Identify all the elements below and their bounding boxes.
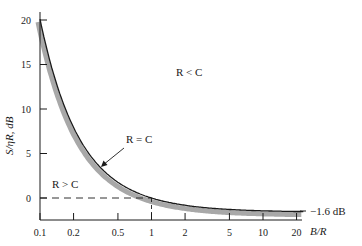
y-axis-label: S/ηR, dB bbox=[3, 116, 15, 155]
x-tick-label: 5 bbox=[227, 227, 232, 238]
plot-area: 0.10.20.5125102005101520 bbox=[21, 12, 306, 238]
y-tick-label: 5 bbox=[26, 148, 31, 159]
x-tick-label: 0.2 bbox=[67, 227, 80, 238]
chart: 0.10.20.5125102005101520 R < C R = C R >… bbox=[0, 0, 362, 246]
y-tick-label: 0 bbox=[26, 193, 31, 204]
x-tick-label: 0.5 bbox=[112, 227, 125, 238]
region-above-label: R < C bbox=[176, 66, 202, 78]
x-tick-label: 10 bbox=[258, 227, 268, 238]
asymptote-label: −1.6 dB bbox=[310, 205, 346, 217]
y-tick-label: 15 bbox=[21, 59, 31, 70]
boundary-label: R = C bbox=[126, 133, 152, 145]
boundary-curve bbox=[40, 19, 303, 212]
x-tick-label: 1 bbox=[149, 227, 154, 238]
region-below-label: R > C bbox=[52, 178, 78, 190]
x-tick-label: 20 bbox=[292, 227, 302, 238]
x-tick-label: 0.1 bbox=[34, 227, 47, 238]
boundary-arrow bbox=[103, 148, 124, 165]
x-tick-label: 2 bbox=[183, 227, 188, 238]
x-axis-label: B/R bbox=[310, 225, 327, 237]
y-tick-label: 20 bbox=[21, 15, 31, 26]
boundary-arrowhead bbox=[101, 161, 108, 168]
y-tick-label: 10 bbox=[21, 104, 31, 115]
